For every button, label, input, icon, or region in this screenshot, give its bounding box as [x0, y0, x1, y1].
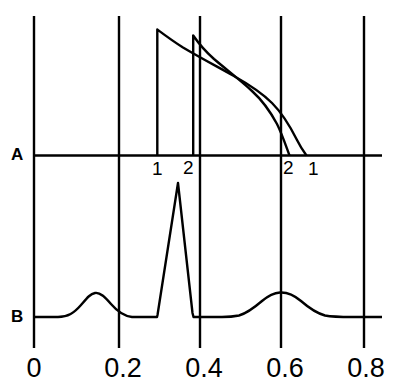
pulse-1-curve — [157, 30, 306, 156]
trace-label-b: B — [11, 308, 23, 325]
x-tick-label-0: 0 — [26, 355, 41, 382]
pulse-2-curve — [193, 36, 289, 156]
x-gridlines — [34, 16, 364, 348]
waveform-plot — [0, 0, 393, 389]
event-label-2-left: 2 — [183, 158, 194, 177]
x-tick-label-1: 0.2 — [104, 355, 142, 382]
trace-b-curve — [34, 183, 382, 317]
figure-container: A B 1 2 2 1 0 0.2 0.4 0.6 0.8 — [0, 0, 393, 389]
event-label-1-left: 1 — [152, 159, 163, 178]
trace-label-a: A — [11, 146, 23, 163]
event-label-2-right: 2 — [283, 158, 294, 177]
x-tick-label-4: 0.8 — [347, 355, 385, 382]
event-label-1-right: 1 — [308, 159, 319, 178]
x-tick-label-3: 0.6 — [266, 355, 304, 382]
x-tick-label-2: 0.4 — [185, 355, 223, 382]
